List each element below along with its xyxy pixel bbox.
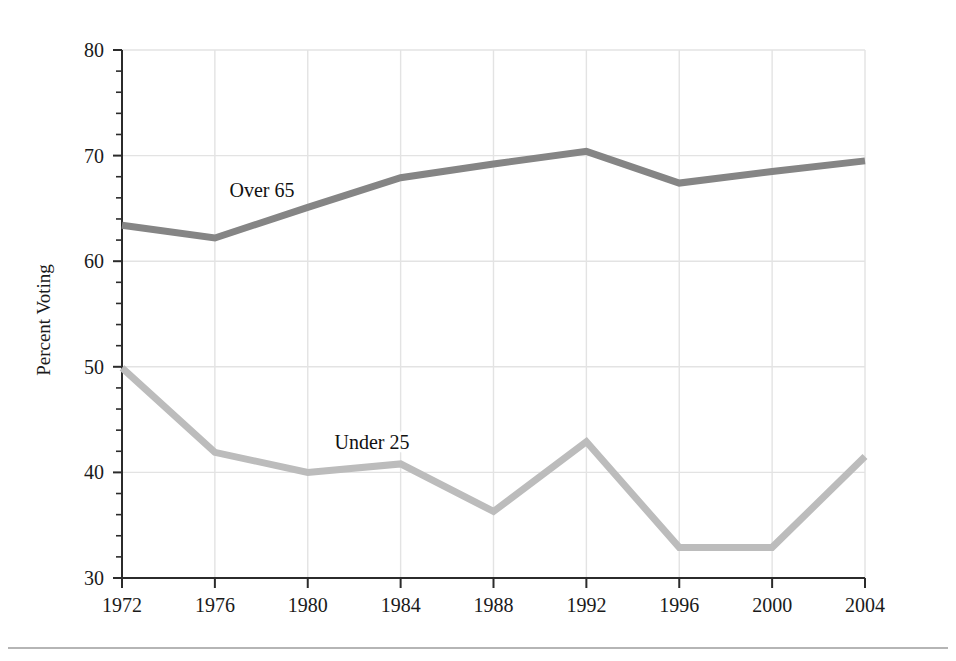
x-tick-label-1996: 1996 xyxy=(659,594,699,616)
vertical-gridlines xyxy=(122,50,865,578)
y-axis-tick-labels: 304050607080 xyxy=(84,39,104,589)
y-tick-label-60: 60 xyxy=(84,250,104,272)
y-tick-label-40: 40 xyxy=(84,461,104,483)
figure-container: 304050607080 197219761980198419881992199… xyxy=(0,0,956,661)
y-tick-label-70: 70 xyxy=(84,145,104,167)
y-tick-label-30: 30 xyxy=(84,567,104,589)
y-axis-title: Percent Voting xyxy=(33,264,54,376)
x-tick-label-1980: 1980 xyxy=(288,594,328,616)
x-tick-label-1988: 1988 xyxy=(474,594,514,616)
y-tick-label-80: 80 xyxy=(84,39,104,61)
x-axis-ticks xyxy=(122,578,865,588)
x-tick-label-2000: 2000 xyxy=(752,594,792,616)
x-tick-label-1984: 1984 xyxy=(381,594,421,616)
x-tick-label-1976: 1976 xyxy=(195,594,235,616)
series-annotation-over-65: Over 65 xyxy=(230,179,295,201)
series-annotation-under-25: Under 25 xyxy=(335,431,410,453)
y-tick-label-50: 50 xyxy=(84,356,104,378)
x-tick-label-2004: 2004 xyxy=(845,594,885,616)
y-axis-ticks xyxy=(113,50,122,578)
x-axis-tick-labels: 197219761980198419881992199620002004 xyxy=(102,594,885,616)
line-chart: 304050607080 197219761980198419881992199… xyxy=(0,0,956,661)
x-tick-label-1992: 1992 xyxy=(566,594,606,616)
series-annotations: Over 65Over 65Under 25Under 25 xyxy=(230,179,410,453)
x-tick-label-1972: 1972 xyxy=(102,594,142,616)
